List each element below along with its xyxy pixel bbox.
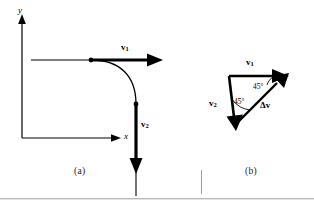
vector-label-v2-panel-b: v2 [209, 99, 217, 109]
vector-v2-arrow [130, 104, 143, 174]
vector-label-v1-panel-b-sub: 1 [251, 60, 254, 67]
y-axis-label-text: y [18, 5, 22, 15]
vector-label-v1-panel-a: v1 [121, 43, 129, 53]
panel-b: v1 v2 Δv 45° 45° (b) [198, 0, 314, 206]
x-axis [22, 134, 121, 142]
vector-label-v1-panel-b: v1 [246, 58, 254, 68]
vector-label-v1-panel-a-sub: 1 [126, 45, 129, 52]
panel-a: y x v1 v2 (a) [0, 0, 198, 206]
vector-v1-arrow [91, 54, 163, 67]
vector-label-delta-v: Δv [260, 101, 270, 110]
panel-a-drawing [0, 0, 198, 206]
vector-delta-v-arrow [238, 73, 289, 122]
vector-label-v2-panel-a-sub: 2 [146, 122, 149, 129]
x-axis-label: x [124, 132, 128, 141]
y-axis-label: y [18, 6, 22, 15]
angle-label-upper: 45° [253, 83, 264, 91]
bottom-rule-shadow [0, 199, 314, 200]
vector-label-v2-panel-a: v2 [141, 120, 149, 130]
caption-a: (a) [74, 166, 85, 176]
y-axis [18, 14, 26, 138]
panel-divider [201, 170, 202, 194]
physics-vector-figure: y x v1 v2 (a) [0, 0, 314, 206]
curved-path [91, 60, 136, 104]
caption-b: (b) [245, 166, 257, 176]
x-axis-label-text: x [124, 131, 128, 141]
angle-label-lower: 45° [234, 98, 245, 106]
vector-label-v2-panel-b-sub: 2 [214, 101, 217, 108]
